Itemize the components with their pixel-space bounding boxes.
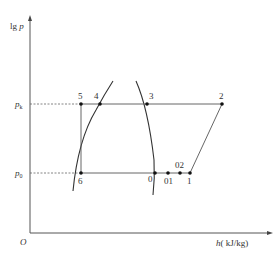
point-5: 5 — [78, 91, 83, 106]
svg-text:2: 2 — [219, 91, 224, 101]
svg-text:1: 1 — [187, 176, 192, 186]
svg-text:02: 02 — [175, 160, 184, 170]
svg-text:0: 0 — [148, 174, 153, 184]
origin-label: O — [20, 237, 27, 247]
pk-label: pk — [14, 99, 23, 110]
compression-line — [190, 104, 222, 173]
svg-text:5: 5 — [78, 91, 83, 101]
svg-text:01: 01 — [164, 176, 173, 186]
diagram-canvas: lg p O h( kJ/kg) pk p0 5 4 3 2 6 0 01 02… — [0, 0, 276, 256]
lgp-h-diagram: lg p O h( kJ/kg) pk p0 5 4 3 2 6 0 01 02… — [0, 0, 276, 256]
point-0: 0 — [148, 171, 157, 184]
x-axis-label: h( kJ/kg) — [216, 238, 248, 248]
svg-text:4: 4 — [94, 91, 99, 101]
p0-label: p0 — [14, 168, 23, 179]
svg-text:3: 3 — [149, 91, 154, 101]
svg-text:6: 6 — [78, 176, 83, 186]
point-6: 6 — [78, 171, 83, 186]
y-axis-label: lg p — [10, 21, 24, 31]
